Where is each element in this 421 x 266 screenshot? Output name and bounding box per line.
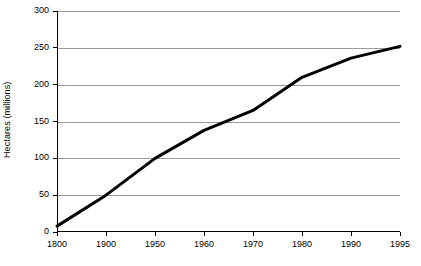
y-tick-label: 150 bbox=[34, 116, 49, 127]
x-tick-label: 1900 bbox=[86, 239, 126, 250]
y-tick-label: 100 bbox=[34, 152, 49, 163]
x-tick-label: 1980 bbox=[282, 239, 322, 250]
y-axis: 050100150200250300 bbox=[0, 0, 57, 266]
x-tick-mark bbox=[253, 232, 254, 236]
x-tick-label: 1990 bbox=[331, 239, 371, 250]
x-tick-mark bbox=[106, 232, 107, 236]
x-tick-mark bbox=[204, 232, 205, 236]
x-tick-label: 1995 bbox=[380, 239, 420, 250]
x-tick-label: 1950 bbox=[135, 239, 175, 250]
x-tick-mark bbox=[57, 232, 58, 236]
x-tick-label: 1960 bbox=[184, 239, 224, 250]
y-tick-label: 50 bbox=[39, 189, 49, 200]
y-tick-label: 300 bbox=[34, 5, 49, 16]
plot-area bbox=[57, 11, 400, 232]
x-tick-mark bbox=[351, 232, 352, 236]
y-tick-label: 200 bbox=[34, 79, 49, 90]
x-tick-mark bbox=[155, 232, 156, 236]
y-tick-label: 0 bbox=[44, 226, 49, 237]
line-chart: Hectares (millions) 050100150200250300 1… bbox=[0, 0, 421, 266]
series-layer bbox=[57, 11, 400, 232]
series-line bbox=[57, 46, 400, 226]
x-tick-mark bbox=[302, 232, 303, 236]
x-axis: 18001900195019601970198019901995 bbox=[57, 232, 400, 266]
x-tick-label: 1970 bbox=[233, 239, 273, 250]
x-tick-label: 1800 bbox=[37, 239, 77, 250]
y-tick-label: 250 bbox=[34, 42, 49, 53]
x-tick-mark bbox=[400, 232, 401, 236]
